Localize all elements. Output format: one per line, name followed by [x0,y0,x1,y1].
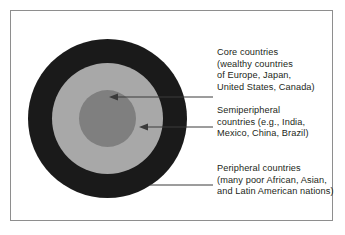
figure-root: Core countries (wealthy countries of Eur… [0,0,345,235]
semiperipheral-label-line-3: Mexico, China, Brazil) [217,128,309,140]
peripheral-label-line-1: Peripheral countries [217,163,334,175]
core-label-line-1: Core countries [217,47,315,59]
core-countries-circle[interactable] [79,90,136,147]
semiperipheral-countries-label: Semiperipheral countries (e.g., India, M… [217,105,309,140]
peripheral-countries-label: Peripheral countries (many poor African,… [217,163,334,198]
core-label-line-4: United States, Canada) [217,82,315,94]
core-countries-label: Core countries (wealthy countries of Eur… [217,47,315,93]
semiperipheral-label-line-2: countries (e.g., India, [217,117,309,129]
core-label-line-2: (wealthy countries [217,59,315,71]
peripheral-label-line-3: and Latin American nations) [217,186,334,198]
peripheral-label-line-2: (many poor African, Asian, [217,175,334,187]
core-label-line-3: of Europe, Japan, [217,70,315,82]
semiperipheral-label-line-1: Semiperipheral [217,105,309,117]
